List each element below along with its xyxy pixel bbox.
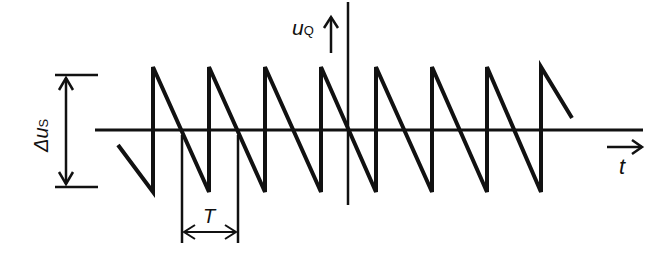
voltage-axis-label: uQ xyxy=(292,16,314,40)
amplitude-label: ΔuS xyxy=(30,119,53,152)
time-axis-label: t xyxy=(619,154,625,180)
sawtooth-diagram xyxy=(0,0,670,260)
period-label: T xyxy=(203,205,215,228)
